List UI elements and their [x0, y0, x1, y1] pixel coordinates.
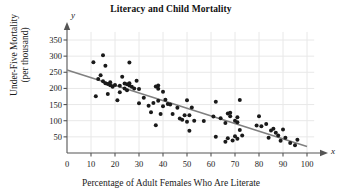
data-point — [223, 121, 227, 125]
data-point — [159, 112, 163, 116]
data-point — [214, 100, 218, 104]
data-point — [283, 136, 287, 140]
data-point — [185, 98, 189, 102]
y-tick-label: 350 — [30, 35, 62, 45]
x-tick-label: 30 — [135, 159, 144, 169]
data-point — [231, 138, 235, 142]
data-point — [223, 140, 227, 144]
data-point — [149, 110, 153, 114]
data-point — [137, 101, 141, 105]
y-tick-label: 50 — [30, 132, 62, 142]
data-point — [187, 113, 191, 117]
axis-lines — [64, 22, 328, 156]
data-point — [156, 87, 160, 91]
data-point — [255, 124, 259, 128]
plot-area — [0, 0, 342, 196]
y-tick-label: 150 — [30, 100, 62, 110]
data-point — [228, 111, 232, 115]
data-point — [156, 99, 160, 103]
data-point — [161, 104, 165, 108]
y-axis-title: Under-Five Mortality (per thousand) — [9, 0, 31, 125]
data-point — [192, 119, 196, 123]
data-point — [118, 90, 122, 94]
y-axis-title-line1: Under-Five Mortality — [9, 14, 19, 96]
data-point — [235, 120, 239, 124]
data-point — [147, 104, 151, 108]
data-point — [185, 120, 189, 124]
scatter-plot-canvas — [0, 0, 342, 196]
data-point — [281, 127, 285, 131]
x-tick-label: 60 — [207, 159, 216, 169]
data-point — [115, 98, 119, 102]
data-point — [180, 118, 184, 122]
data-point — [257, 114, 261, 118]
data-point — [168, 103, 172, 107]
data-point — [120, 75, 124, 79]
data-point — [113, 83, 117, 87]
x-tick-label: 100 — [301, 159, 314, 169]
data-point — [187, 129, 191, 133]
y-axis-variable-letter: y — [71, 10, 75, 20]
x-tick-label: 70 — [231, 159, 240, 169]
data-point — [279, 139, 283, 143]
x-tick-label: 10 — [87, 159, 96, 169]
data-point — [190, 105, 194, 109]
y-tick-label: 100 — [30, 116, 62, 126]
data-point — [151, 101, 155, 105]
data-point — [271, 127, 275, 131]
data-point — [137, 87, 141, 91]
data-point — [228, 114, 232, 118]
x-axis-title: Percentage of Adult Females Who Are Lite… — [0, 178, 342, 188]
x-axis-variable-letter: x — [331, 146, 335, 156]
x-tick-label: 80 — [255, 159, 264, 169]
data-point — [94, 94, 98, 98]
data-point — [103, 64, 107, 68]
data-point — [235, 137, 239, 141]
y-tick-label: 300 — [30, 51, 62, 61]
data-point — [171, 112, 175, 116]
data-point — [125, 88, 129, 92]
data-point — [259, 124, 263, 128]
data-point — [276, 134, 280, 138]
x-tick-label: 20 — [111, 159, 120, 169]
data-point — [214, 135, 218, 139]
x-tick-label: 90 — [279, 159, 288, 169]
data-point — [238, 98, 242, 102]
data-point — [267, 136, 271, 140]
data-point — [175, 106, 179, 110]
data-point — [202, 119, 206, 123]
data-point — [219, 116, 223, 120]
y-tick-label: 250 — [30, 67, 62, 77]
data-point — [96, 77, 100, 81]
data-point — [101, 53, 105, 57]
data-point — [288, 141, 292, 145]
data-point — [295, 138, 299, 142]
data-point — [238, 128, 242, 132]
data-point — [118, 84, 122, 88]
data-point — [106, 92, 110, 96]
data-point — [135, 79, 139, 83]
data-points — [91, 53, 299, 147]
axis-tick-marks — [64, 40, 308, 157]
y-axis-title-line2: (per thousand) — [20, 0, 31, 125]
data-point — [226, 136, 230, 140]
x-tick-label: 0 — [65, 159, 69, 169]
data-point — [293, 143, 297, 147]
data-point — [127, 61, 131, 65]
data-point — [163, 98, 167, 102]
data-point — [132, 86, 136, 90]
data-point — [264, 122, 268, 126]
y-tick-label: 200 — [30, 83, 62, 93]
data-point — [211, 115, 215, 119]
x-tick-label: 40 — [159, 159, 168, 169]
data-point — [235, 115, 239, 119]
data-point — [91, 60, 95, 64]
data-point — [240, 134, 244, 138]
data-point — [183, 113, 187, 117]
data-point — [161, 90, 165, 94]
data-point — [99, 73, 103, 77]
data-point — [142, 96, 146, 100]
x-tick-label: 50 — [183, 159, 192, 169]
chart-figure: Literacy and Child Mortality 50100150200… — [0, 0, 342, 196]
data-point — [154, 123, 158, 127]
